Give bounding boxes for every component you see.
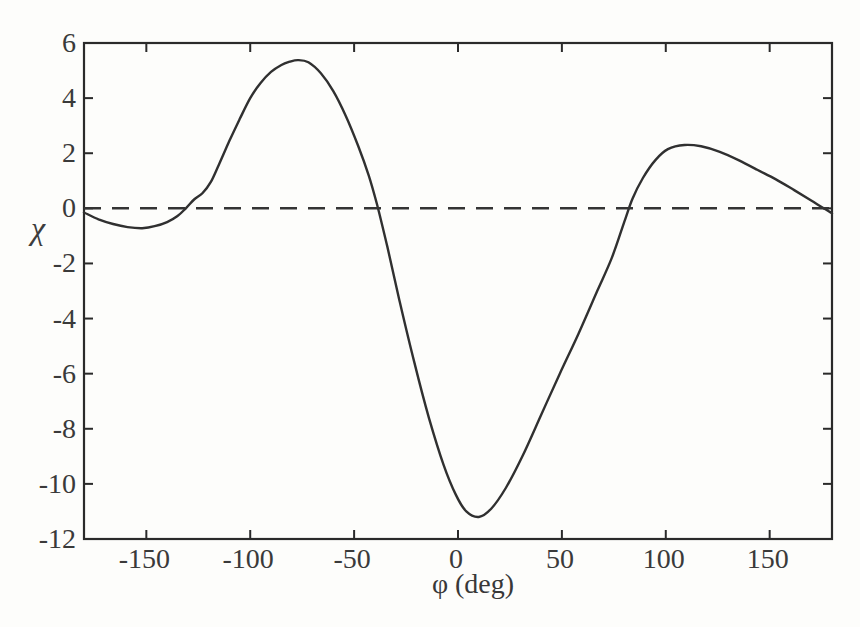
chart-figure: -150-100-500501001506420-2-4-6-8-10-12 χ… xyxy=(0,0,860,627)
x-tick-label: 150 xyxy=(747,543,789,574)
y-tick-label: -8 xyxy=(53,413,76,444)
y-tick-label: -4 xyxy=(53,303,76,334)
plot-border xyxy=(84,43,832,539)
x-axis-label: φ (deg) xyxy=(398,568,548,600)
y-axis-label: χ xyxy=(18,210,58,247)
x-tick-label: 50 xyxy=(546,543,574,574)
x-tick-label: 100 xyxy=(643,543,685,574)
y-tick-label: -2 xyxy=(53,247,76,278)
y-tick-label: -10 xyxy=(39,468,76,499)
y-tick-label: 4 xyxy=(62,82,76,113)
chi-curve xyxy=(84,60,832,517)
y-tick-label: 2 xyxy=(62,137,76,168)
y-tick-label: 0 xyxy=(62,192,76,223)
y-tick-label: 6 xyxy=(62,27,76,58)
y-tick-label: -6 xyxy=(53,358,76,389)
x-tick-label: -150 xyxy=(119,543,170,574)
x-tick-label: -50 xyxy=(333,543,370,574)
x-tick-label: -100 xyxy=(223,543,274,574)
chart-canvas: -150-100-500501001506420-2-4-6-8-10-12 xyxy=(0,0,860,627)
y-tick-label: -12 xyxy=(39,523,76,554)
scanned-figure-page: -150-100-500501001506420-2-4-6-8-10-12 χ… xyxy=(0,0,860,627)
